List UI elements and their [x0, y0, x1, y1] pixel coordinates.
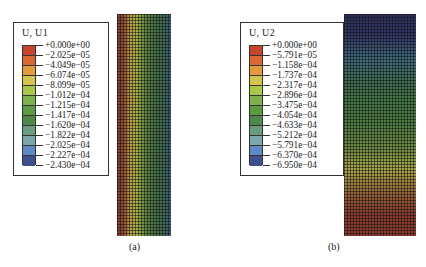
color-bar-segment — [250, 56, 262, 66]
legend-value: −1.012e−04 — [38, 90, 90, 100]
color-bar-segment — [250, 126, 262, 136]
color-bar-segment — [23, 56, 35, 66]
legend-values: +0.000e+00−2.025e−05−4.049e−05−6.074e−05… — [38, 40, 90, 170]
mesh-grid — [117, 14, 171, 236]
color-bar-segment — [250, 106, 262, 116]
legend-value: −1.737e−04 — [265, 70, 317, 80]
legend-value: −2.317e−04 — [265, 80, 317, 90]
legend-value: −1.215e−04 — [38, 100, 90, 110]
color-bar-segment — [23, 86, 35, 96]
color-bar-segment — [23, 126, 35, 136]
legend-u2: U, U2 +0.000e+00−5.791e−05−1.158e−04−1.7… — [240, 22, 344, 176]
color-bar-segment — [250, 116, 262, 126]
legend-value: −2.430e−04 — [38, 160, 90, 170]
legend-value: −5.791e−05 — [265, 50, 317, 60]
fe-mesh-u1-contour — [117, 14, 171, 236]
legend-value: −5.791e−04 — [265, 140, 317, 150]
mesh-grid — [344, 14, 416, 236]
legend-u1: U, U1 +0.000e+00−2.025e−05−4.049e−05−6.0… — [13, 22, 109, 176]
color-bar-segment — [23, 76, 35, 86]
caption-a: (a) — [129, 241, 140, 252]
legend-value: −4.049e−05 — [38, 60, 90, 70]
legend-value: −6.950e−04 — [265, 160, 317, 170]
color-bar-segment — [23, 156, 35, 166]
legend-value: −2.025e−05 — [38, 50, 90, 60]
legend-value: −8.099e−05 — [38, 80, 90, 90]
legend-value: −1.417e−04 — [38, 110, 90, 120]
legend-value: −4.054e−04 — [265, 110, 317, 120]
legend-values: +0.000e+00−5.791e−05−1.158e−04−1.737e−04… — [265, 40, 317, 170]
legend-value: −1.822e−04 — [38, 130, 90, 140]
color-bar-segment — [250, 136, 262, 146]
color-bar-segment — [23, 136, 35, 146]
legend-value: −6.370e−04 — [265, 150, 317, 160]
color-bar-segment — [250, 156, 262, 166]
color-bar — [22, 45, 36, 165]
legend-value: −2.025e−04 — [38, 140, 90, 150]
color-bar-segment — [23, 106, 35, 116]
caption-b: (b) — [328, 241, 340, 252]
fe-mesh-u2-contour — [344, 14, 416, 236]
legend-value: −4.633e−04 — [265, 120, 317, 130]
color-bar-segment — [23, 116, 35, 126]
color-bar-segment — [250, 66, 262, 76]
color-bar — [249, 45, 263, 165]
color-bar-segment — [23, 66, 35, 76]
legend-title: U, U1 — [22, 27, 48, 38]
legend-value: +0.000e+00 — [265, 40, 317, 50]
legend-value: −1.620e−04 — [38, 120, 90, 130]
color-bar-segment — [23, 96, 35, 106]
legend-value: −3.475e−04 — [265, 100, 317, 110]
color-bar-segment — [250, 146, 262, 156]
color-bar-segment — [23, 146, 35, 156]
color-bar-segment — [250, 96, 262, 106]
legend-value: −6.074e−05 — [38, 70, 90, 80]
color-bar-segment — [250, 86, 262, 96]
color-bar-segment — [250, 46, 262, 56]
legend-value: −2.227e−04 — [38, 150, 90, 160]
legend-value: −1.158e−04 — [265, 60, 317, 70]
legend-value: −2.896e−04 — [265, 90, 317, 100]
legend-value: +0.000e+00 — [38, 40, 90, 50]
color-bar-segment — [250, 76, 262, 86]
legend-value: −5.212e−04 — [265, 130, 317, 140]
legend-title: U, U2 — [249, 27, 275, 38]
color-bar-segment — [23, 46, 35, 56]
